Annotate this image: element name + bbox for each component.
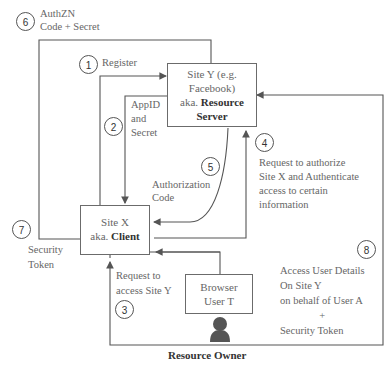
resource-server-line1: Site Y (e.g. (168, 67, 256, 81)
step-5-label: AuthorizationCode (152, 178, 210, 204)
step-3-label: Request toaccess Site Y (116, 268, 172, 298)
step-7-label: SecurityToken (28, 242, 63, 272)
step-3-badge: 3 (115, 300, 134, 319)
step-4-label: Request to authorizeSite X and Authentic… (259, 156, 359, 212)
step-6-badge: 6 (16, 12, 35, 31)
step-1-badge: 1 (79, 55, 98, 74)
step-8-label: Access User Details On Site Y on behalf … (280, 263, 365, 338)
step-7-badge: 7 (12, 220, 31, 239)
client-node: Site X aka. Client (80, 205, 150, 255)
step-5-badge: 5 (201, 157, 220, 176)
resource-owner-label: Resource Owner (168, 349, 246, 361)
step-2-badge: 2 (104, 117, 123, 136)
step-4-badge: 4 (255, 133, 274, 152)
step-6-label: AuthZNCode + Secret (40, 7, 100, 33)
resource-server-node: Site Y (e.g. Facebook) aka. Resource Ser… (167, 63, 257, 127)
step-1-label: Register (102, 56, 137, 69)
step-2-label: AppIDandSecret (131, 98, 160, 140)
resource-server-title: Resource (201, 96, 244, 108)
browser-node: Browser User T (185, 274, 253, 314)
person-icon (208, 316, 232, 342)
step-8-badge: 8 (357, 240, 376, 259)
client-title: Client (111, 230, 140, 242)
resource-server-line2: Facebook) (168, 81, 256, 95)
client-line1: Site X (81, 215, 149, 229)
